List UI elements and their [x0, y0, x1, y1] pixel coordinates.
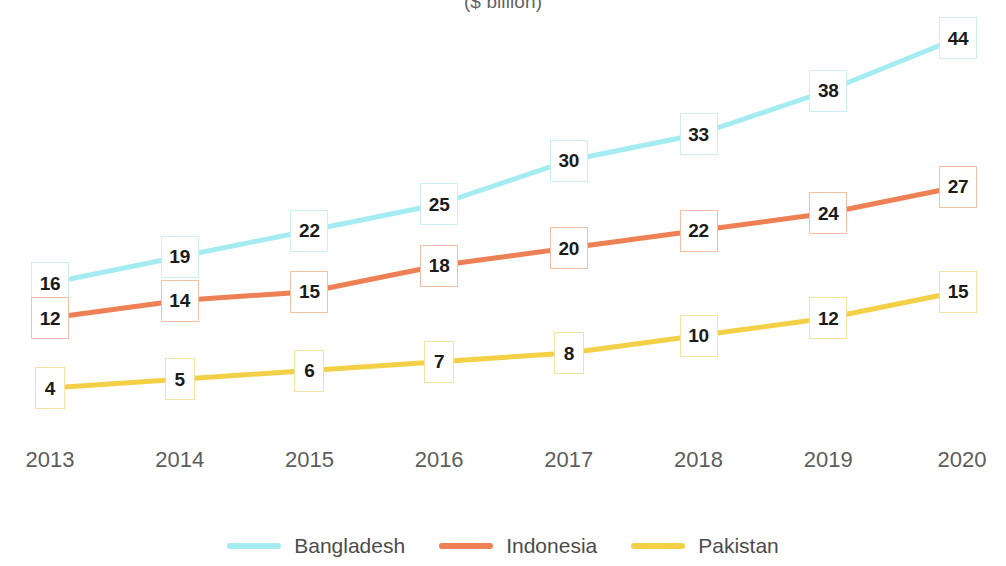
chart-legend: BangladeshIndonesiaPakistan — [0, 534, 1006, 558]
data-label: 19 — [161, 236, 199, 278]
x-axis-tick-2019: 2019 — [804, 447, 853, 473]
data-label: 18 — [420, 245, 458, 287]
data-label: 44 — [939, 17, 977, 59]
data-label: 8 — [554, 332, 584, 374]
x-axis-tick-2014: 2014 — [155, 447, 204, 473]
data-label: 33 — [680, 113, 718, 155]
data-label: 6 — [294, 350, 324, 392]
x-axis-tick-2015: 2015 — [285, 447, 334, 473]
legend-swatch-icon — [631, 543, 685, 549]
chart-plot-area — [0, 0, 1006, 566]
legend-label: Bangladesh — [294, 534, 405, 558]
data-label: 7 — [424, 341, 454, 383]
x-axis-tick-2013: 2013 — [26, 447, 75, 473]
data-label: 5 — [165, 358, 195, 400]
legend-swatch-icon — [439, 543, 493, 549]
data-label: 22 — [680, 210, 718, 252]
data-label: 4 — [35, 367, 65, 409]
data-label: 10 — [680, 315, 718, 357]
legend-label: Pakistan — [698, 534, 779, 558]
data-label: 14 — [161, 280, 199, 322]
line-chart: ($ billion) 1619222530333844121415182022… — [0, 0, 1006, 566]
data-label: 27 — [939, 166, 977, 208]
data-label: 38 — [809, 70, 847, 112]
data-label: 22 — [290, 210, 328, 252]
x-axis-tick-2017: 2017 — [544, 447, 593, 473]
legend-swatch-icon — [227, 543, 281, 549]
data-label: 12 — [809, 297, 847, 339]
x-axis-tick-2016: 2016 — [415, 447, 464, 473]
legend-item-bangladesh[interactable]: Bangladesh — [227, 534, 405, 558]
x-axis-tick-2018: 2018 — [674, 447, 723, 473]
data-label: 12 — [31, 297, 69, 339]
data-label: 24 — [809, 192, 847, 234]
legend-label: Indonesia — [506, 534, 597, 558]
legend-item-indonesia[interactable]: Indonesia — [439, 534, 597, 558]
legend-item-pakistan[interactable]: Pakistan — [631, 534, 779, 558]
data-label: 20 — [550, 227, 588, 269]
data-label: 15 — [939, 271, 977, 313]
x-axis-tick-2020: 2020 — [938, 447, 987, 473]
data-label: 25 — [420, 183, 458, 225]
data-label: 15 — [290, 271, 328, 313]
data-label: 30 — [550, 140, 588, 182]
